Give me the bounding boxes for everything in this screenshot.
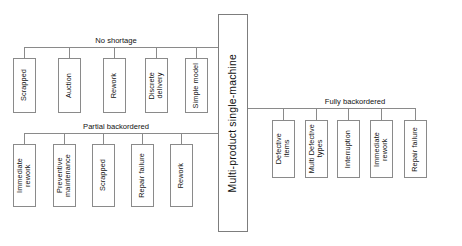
leaf-node-label: Auction	[65, 73, 73, 98]
leaf-node[interactable]: Immediate rework	[370, 120, 393, 178]
leaf-node[interactable]: Scrapped	[13, 58, 36, 113]
leaf-node-label: Repair failure	[411, 127, 419, 172]
leaf-node-label: Multi Defective types	[308, 124, 324, 173]
leaf-node[interactable]: Repair failure	[404, 120, 427, 178]
leaf-node-label: Scrapped	[20, 69, 28, 101]
branch-label-fully-backordered: Fully backordered	[322, 97, 388, 106]
root-node-multi-product-single-machine[interactable]: Multi-product single-machine	[218, 14, 248, 232]
leaf-node-label: Interruption	[344, 130, 352, 168]
leaf-node[interactable]: Interruption	[337, 120, 360, 178]
leaf-node[interactable]: Scrapped	[92, 144, 115, 207]
leaf-node-label: Discrete delivery	[148, 72, 164, 100]
leaf-node[interactable]: Simple model	[185, 58, 208, 113]
branch-label-partial-backordered: Partial backordered	[80, 122, 152, 131]
leaf-node[interactable]: Rework	[170, 144, 193, 207]
leaf-node[interactable]: Preventive maintenance	[53, 144, 76, 207]
leaf-node[interactable]: Defective items	[272, 120, 295, 178]
leaf-node[interactable]: Immediate rework	[13, 144, 36, 207]
leaf-node[interactable]: Discrete delivery	[145, 58, 168, 113]
leaf-node[interactable]: Auction	[58, 58, 81, 113]
leaf-node-label: Repair failure	[138, 153, 146, 198]
leaf-node[interactable]: Multi Defective types	[305, 120, 328, 178]
leaf-node-label: Rework	[110, 73, 118, 98]
leaf-node-label: Defective items	[275, 133, 291, 164]
leaf-node-label: Scrapped	[99, 159, 107, 191]
diagram-canvas: Multi-product single-machineScrappedAuct…	[0, 0, 462, 246]
leaf-node-label: Immediate rework	[16, 158, 32, 193]
root-node-label: Multi-product single-machine	[227, 54, 239, 192]
leaf-node-label: Immediate rework	[373, 132, 389, 167]
leaf-node[interactable]: Rework	[103, 58, 126, 113]
leaf-node-label: Rework	[177, 163, 185, 188]
leaf-node-label: Preventive maintenance	[56, 154, 72, 197]
leaf-node[interactable]: Repair failure	[131, 144, 154, 207]
leaf-node-label: Simple model	[192, 63, 200, 108]
branch-label-no-shortage: No shortage	[92, 36, 139, 45]
